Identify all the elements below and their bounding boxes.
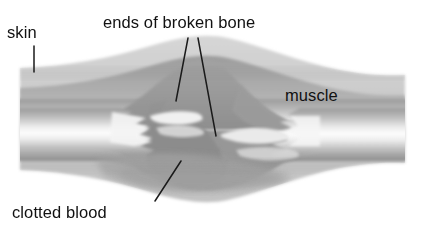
label-skin: skin (7, 24, 37, 41)
label-muscle: muscle (285, 87, 338, 104)
anatomy-illustration (0, 0, 425, 237)
fracture-diagram-figure: skin ends of broken bone muscle clotted … (0, 0, 425, 237)
label-ends-of-broken-bone: ends of broken bone (103, 14, 255, 31)
label-clotted-blood: clotted blood (12, 204, 107, 221)
